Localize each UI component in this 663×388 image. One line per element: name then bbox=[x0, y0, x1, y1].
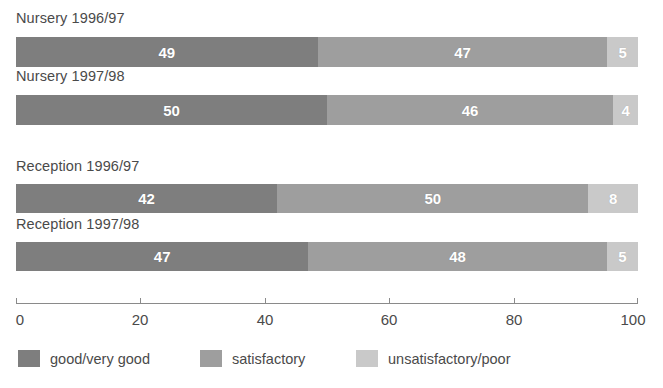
bar-segment-value: 42 bbox=[138, 191, 155, 206]
bar-group-nursery-1997-98: Nursery 1997/98 50 46 4 bbox=[0, 68, 663, 128]
stacked-bar-chart: Nursery 1996/97 49 47 5 Nursery 1997/98 … bbox=[0, 0, 663, 388]
bar-segment-value: 4 bbox=[621, 103, 629, 118]
bar-segment-satisfactory: 47 bbox=[318, 37, 607, 67]
bar-track: 49 47 5 bbox=[16, 37, 638, 67]
legend-swatch-icon bbox=[356, 350, 378, 367]
axis-tick-label: 80 bbox=[506, 311, 523, 328]
axis-tick bbox=[265, 298, 266, 304]
legend-label: good/very good bbox=[50, 351, 150, 367]
bar-segment-satisfactory: 50 bbox=[277, 184, 588, 213]
legend-item-satisfactory: satisfactory bbox=[200, 350, 305, 367]
legend-label: satisfactory bbox=[232, 351, 305, 367]
axis-tick-label: 20 bbox=[132, 311, 149, 328]
axis-tick-label: 0 bbox=[16, 311, 24, 328]
bar-track: 42 50 8 bbox=[16, 184, 638, 213]
legend-swatch-icon bbox=[18, 350, 40, 367]
axis-tick bbox=[637, 298, 638, 304]
legend-label: unsatisfactory/poor bbox=[388, 351, 511, 367]
chart-legend: good/very good satisfactory unsatisfacto… bbox=[0, 350, 663, 374]
axis-tick-label: 100 bbox=[620, 311, 645, 328]
bar-segment-unsatisfactory: 5 bbox=[607, 242, 638, 271]
legend-item-good: good/very good bbox=[18, 350, 150, 367]
bar-segment-value: 49 bbox=[159, 45, 176, 60]
axis-tick-label: 40 bbox=[257, 311, 274, 328]
bar-label: Reception 1996/97 bbox=[16, 158, 139, 174]
bar-group-reception-1996-97: Reception 1996/97 42 50 8 bbox=[0, 158, 663, 216]
bar-segment-value: 50 bbox=[163, 103, 180, 118]
legend-swatch-icon bbox=[200, 350, 222, 367]
bar-segment-unsatisfactory: 5 bbox=[607, 37, 638, 67]
bar-track: 47 48 5 bbox=[16, 242, 638, 271]
bar-label: Nursery 1996/97 bbox=[16, 10, 125, 26]
bar-segment-satisfactory: 48 bbox=[308, 242, 607, 271]
bar-segment-value: 48 bbox=[449, 249, 466, 264]
bar-segment-value: 50 bbox=[424, 191, 441, 206]
bar-segment-satisfactory: 46 bbox=[327, 95, 613, 125]
bar-segment-good: 49 bbox=[16, 37, 318, 67]
bar-segment-good: 47 bbox=[16, 242, 308, 271]
axis-tick bbox=[16, 298, 17, 304]
bar-label: Nursery 1997/98 bbox=[16, 68, 125, 84]
bar-segment-value: 5 bbox=[618, 45, 626, 60]
bar-group-nursery-1996-97: Nursery 1996/97 49 47 5 bbox=[0, 10, 663, 70]
axis-tick bbox=[140, 298, 141, 304]
bar-track: 50 46 4 bbox=[16, 95, 638, 125]
bar-segment-value: 47 bbox=[454, 45, 471, 60]
bar-segment-value: 47 bbox=[154, 249, 171, 264]
axis-tick bbox=[514, 298, 515, 304]
x-axis: 0 20 40 60 80 100 bbox=[16, 303, 638, 304]
bar-segment-value: 46 bbox=[462, 103, 479, 118]
bar-segment-value: 8 bbox=[609, 191, 617, 206]
bar-segment-good: 50 bbox=[16, 95, 327, 125]
bar-group-reception-1997-98: Reception 1997/98 47 48 5 bbox=[0, 216, 663, 274]
bar-segment-value: 5 bbox=[618, 249, 626, 264]
axis-tick bbox=[389, 298, 390, 304]
legend-item-unsatisfactory: unsatisfactory/poor bbox=[356, 350, 511, 367]
bar-label: Reception 1997/98 bbox=[16, 216, 139, 232]
bar-segment-good: 42 bbox=[16, 184, 277, 213]
bar-segment-unsatisfactory: 4 bbox=[613, 95, 638, 125]
bar-segment-unsatisfactory: 8 bbox=[588, 184, 638, 213]
axis-tick-label: 60 bbox=[381, 311, 398, 328]
